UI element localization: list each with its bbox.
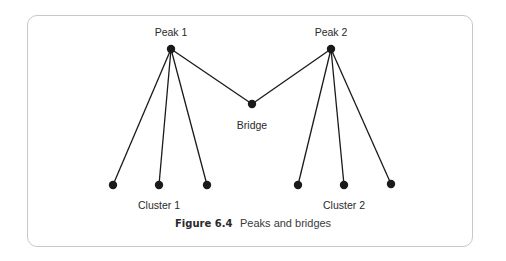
figure-caption: Peaks and bridges xyxy=(240,217,332,229)
figure-number: Figure 6.4 xyxy=(175,218,232,229)
edge-peak1-c1b xyxy=(159,49,171,185)
node-c1b xyxy=(155,181,163,189)
label-bridge: Bridge xyxy=(237,119,268,131)
edge-peak2-c2c xyxy=(331,49,391,184)
node-c2c xyxy=(387,180,395,188)
node-bridge xyxy=(248,100,256,108)
node-peak1 xyxy=(167,45,175,53)
edge-peak1-c1a xyxy=(113,49,171,185)
label-peak-1: Peak 1 xyxy=(155,26,188,38)
node-peak2 xyxy=(327,45,335,53)
label-cluster-1: Cluster 1 xyxy=(138,199,180,211)
network-diagram: Peak 1 Peak 2 Bridge Cluster 1 Cluster 2… xyxy=(0,0,506,261)
node-c1a xyxy=(109,181,117,189)
edge-peak2-c2b xyxy=(331,49,344,185)
edge-peak2-c2a xyxy=(298,49,331,185)
node-c2a xyxy=(294,181,302,189)
label-cluster-2: Cluster 2 xyxy=(323,199,365,211)
node-c2b xyxy=(340,181,348,189)
node-c1c xyxy=(203,181,211,189)
label-peak-2: Peak 2 xyxy=(315,26,348,38)
